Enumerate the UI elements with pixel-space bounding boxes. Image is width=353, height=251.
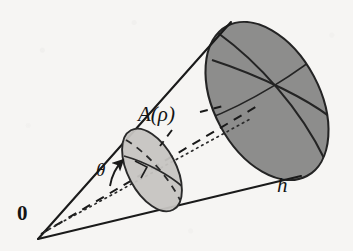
area-leader-down <box>160 130 172 146</box>
figure-canvas <box>0 0 353 251</box>
small-spherical-cap-group <box>110 119 195 221</box>
large-spherical-cap <box>180 1 353 201</box>
area-label: A(ρ) <box>138 104 175 125</box>
theta-angle-arrow <box>110 160 123 186</box>
large-spherical-cap-group <box>180 1 353 201</box>
theta-angle-label: θ <box>96 160 105 179</box>
height-label: h <box>277 175 288 196</box>
origin-label: 0 <box>17 203 28 224</box>
small-spherical-cap <box>110 119 195 221</box>
cone-solid-angle-figure: 0 θ A(ρ) h <box>0 0 353 251</box>
